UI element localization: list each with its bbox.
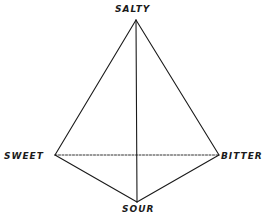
vertex-label-salty: SALTY xyxy=(115,4,150,14)
vertex-label-bitter: BITTER xyxy=(221,151,263,161)
edge-salty-bitter xyxy=(136,20,219,155)
vertex-label-sweet: SWEET xyxy=(4,151,44,161)
taste-tetrahedron-diagram xyxy=(0,0,276,218)
edge-bitter-sour xyxy=(137,155,219,202)
edge-salty-sour xyxy=(136,20,137,202)
edge-salty-sweet xyxy=(55,20,136,155)
vertex-label-sour: SOUR xyxy=(122,204,154,214)
edge-sweet-sour xyxy=(55,155,137,202)
